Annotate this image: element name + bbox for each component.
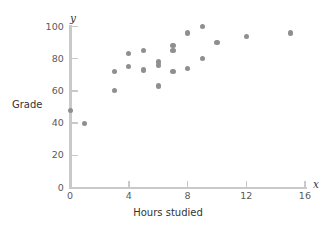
data-point-layer: [0, 0, 336, 230]
data-point: [288, 30, 293, 35]
data-point: [170, 69, 175, 74]
data-point: [156, 63, 161, 68]
data-point: [126, 51, 131, 56]
data-point: [126, 64, 131, 69]
data-point: [141, 48, 146, 53]
data-point: [112, 88, 117, 93]
data-point: [141, 67, 146, 72]
data-point: [82, 121, 87, 126]
data-point: [185, 66, 190, 71]
data-point: [185, 30, 190, 35]
data-point: [68, 108, 73, 113]
data-point: [112, 69, 117, 74]
data-point: [214, 40, 219, 45]
data-point: [156, 83, 161, 88]
data-point: [170, 48, 175, 53]
data-point: [244, 34, 249, 39]
data-point: [200, 56, 205, 61]
scatter-plot-figure: y x Grade Hours studied 020406080100 048…: [0, 0, 336, 230]
data-point: [200, 24, 205, 29]
